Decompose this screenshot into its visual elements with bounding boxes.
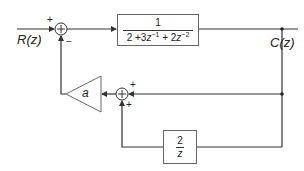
gain-label: a — [82, 86, 89, 100]
input-label: R(z) — [17, 33, 42, 47]
output-label: C(z) — [270, 36, 295, 50]
junction2-plus-sign-bottom: + — [126, 100, 132, 110]
junction1-plus-sign: + — [47, 15, 53, 25]
feedback-numerator: 2 — [164, 136, 196, 146]
forward-denominator: 2 +3z−1 + 2z−2 — [118, 32, 198, 44]
forward-transfer-function-block: 1 2 +3z−1 + 2z−2 — [117, 14, 199, 46]
junction2-plus-sign-right: + — [130, 80, 136, 90]
junction1-minus-sign: − — [66, 37, 72, 47]
feedback-denominator: z — [164, 149, 196, 159]
feedback-delay-block: 2 z — [163, 130, 197, 164]
forward-numerator: 1 — [118, 17, 198, 28]
summing-junction-1 — [55, 23, 67, 35]
